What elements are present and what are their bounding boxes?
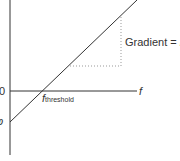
origin-label: 0 [0, 86, 5, 97]
gradient-triangle [70, 16, 121, 66]
intercept-label: φ [0, 116, 3, 127]
gradient-text: Gradient = [125, 36, 180, 48]
graph-canvas [0, 0, 180, 161]
gradient-label: Gradient = h [125, 37, 180, 48]
threshold-label: fthreshold [42, 93, 74, 104]
threshold-subscript: threshold [45, 96, 74, 103]
x-axis-label: f [139, 86, 142, 97]
